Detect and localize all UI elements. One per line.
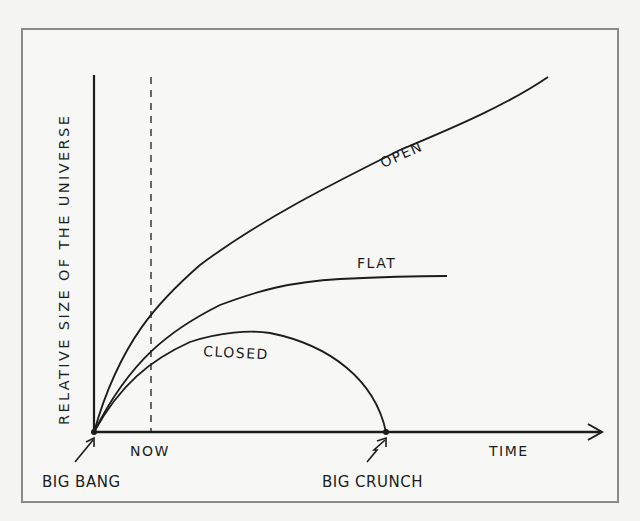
closed-label: CLOSED xyxy=(203,343,269,362)
open-label: OPEN xyxy=(378,138,425,171)
universe-expansion-diagram: RELATIVE SIZE OF THE UNIVERSE TIME NOW B… xyxy=(0,0,640,521)
big-bang-arrow-icon xyxy=(75,438,94,462)
big-bang-point xyxy=(91,429,97,435)
big-crunch-label: BIG CRUNCH xyxy=(322,473,423,491)
now-label: NOW xyxy=(130,443,170,459)
x-axis-label: TIME xyxy=(488,443,529,459)
flat-curve xyxy=(94,276,447,432)
big-bang-label: BIG BANG xyxy=(42,473,121,491)
open-curve xyxy=(94,77,548,432)
flat-label: FLAT xyxy=(357,255,396,271)
big-crunch-point xyxy=(383,429,389,435)
y-axis-label: RELATIVE SIZE OF THE UNIVERSE xyxy=(56,114,72,425)
big-crunch-arrow-icon xyxy=(367,438,386,462)
